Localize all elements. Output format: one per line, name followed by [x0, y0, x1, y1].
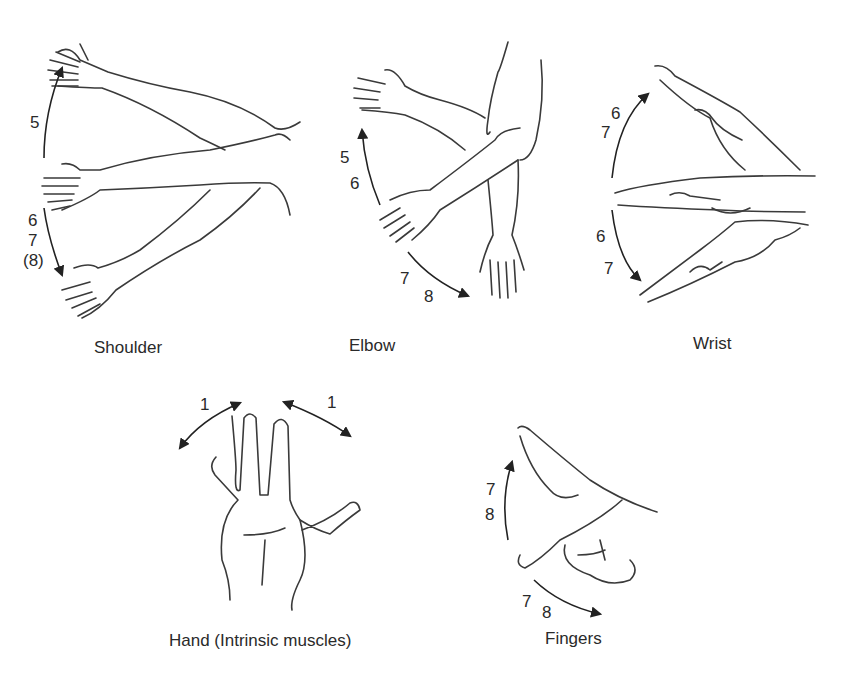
caption-fingers: Fingers [545, 629, 602, 649]
shoulder-up-nerve-label: 5 [30, 114, 39, 132]
wrist-up-nerve-label-1: 6 [611, 105, 620, 123]
figure-root: 5 6 7 (8) 5 6 7 8 6 7 6 7 1 1 7 8 7 8 Sh… [0, 0, 857, 676]
wrist-down-arrow-icon [612, 210, 640, 280]
wrist-up-nerve-label-2: 7 [601, 124, 610, 142]
fingers-illustration [505, 426, 657, 614]
elbow-down-nerve-label-1: 7 [400, 270, 409, 288]
hand-left-nerve-label: 1 [200, 396, 209, 414]
elbow-down-arrow-icon [408, 252, 468, 296]
shoulder-up-arrow-icon [44, 68, 62, 158]
shoulder-illustration [42, 44, 300, 318]
wrist-down-nerve-label-2: 7 [604, 260, 613, 278]
elbow-illustration [354, 42, 542, 298]
wrist-extended-hand-icon [655, 66, 800, 170]
shoulder-down-nerve-label-2: 7 [28, 232, 37, 250]
caption-elbow: Elbow [349, 336, 395, 356]
elbow-down-nerve-label-2: 8 [424, 288, 433, 306]
fingers-up-arrow-icon [505, 462, 512, 540]
fingers-up-nerve-label-2: 8 [485, 506, 494, 524]
shoulder-lowered-arm-icon [62, 188, 260, 318]
elbow-angled-forearm-icon [380, 128, 520, 242]
shoulder-down-arrow-icon [44, 208, 62, 275]
fingers-up-nerve-label-1: 7 [486, 481, 495, 499]
hand-left-spread-arrow-icon [180, 403, 240, 448]
hand-right-nerve-label: 1 [327, 394, 336, 412]
caption-hand: Hand (Intrinsic muscles) [169, 631, 351, 651]
fingers-down-nerve-label-2: 8 [542, 604, 551, 622]
shoulder-down-nerve-label-3: (8) [23, 252, 44, 270]
wrist-flexed-hand-icon [640, 221, 808, 302]
wrist-down-nerve-label-1: 6 [596, 228, 605, 246]
elbow-up-nerve-label-2: 6 [350, 175, 359, 193]
wrist-illustration [612, 66, 815, 302]
elbow-up-nerve-label-1: 5 [340, 149, 349, 167]
fingers-down-nerve-label-1: 7 [522, 593, 531, 611]
wrist-neutral-hand-icon [615, 176, 815, 213]
shoulder-horizontal-arm-icon [42, 134, 290, 215]
elbow-raised-forearm-icon [354, 70, 485, 150]
shoulder-down-nerve-label-1: 6 [28, 212, 37, 230]
hand-right-spread-arrow-icon [284, 402, 350, 436]
caption-wrist: Wrist [693, 334, 731, 354]
caption-shoulder: Shoulder [94, 338, 162, 358]
hand-illustration [180, 402, 360, 610]
shoulder-raised-arm-icon [48, 44, 300, 150]
elbow-up-arrow-icon [362, 130, 380, 205]
